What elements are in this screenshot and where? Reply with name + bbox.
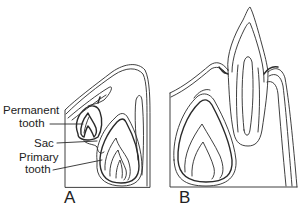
panel-b-permanent-dentin [192,142,215,179]
panel-label-a: A [64,188,76,205]
panel-label-b: B [179,188,190,205]
label-sac: Sac [34,137,54,149]
label-primary-tooth-line1: Primary [19,151,59,163]
label-permanent-tooth-line2: tooth [19,117,45,129]
panel-a-annotations: Permanent tooth Sac Primary tooth A [3,104,102,205]
erupted-tooth-pulp [242,57,253,136]
leader-primary-tooth [53,160,102,170]
panel-a [65,65,150,187]
panel-b-permanent-enamel [178,100,232,182]
erupted-tooth-dentin [237,65,260,132]
primary-tooth-pulp [116,160,122,178]
erupted-tooth-outer [228,7,268,146]
permanent-tooth-sac [76,106,101,140]
panel-b-base-outline [170,93,297,187]
panel-a-mucosa-inner [68,87,111,118]
tooth-development-diagram: Permanent tooth Sac Primary tooth A [0,0,301,205]
panel-b-right-ridge [268,69,297,187]
permanent-tooth-crown [81,113,97,137]
label-permanent-tooth-line1: Permanent [3,104,60,116]
panel-b-right-ridge-inner2 [267,82,286,187]
panel-b-permanent-crown [185,124,223,178]
label-primary-tooth-line2: tooth [25,163,51,175]
panel-b: B [170,7,297,205]
leader-sac [57,141,97,143]
